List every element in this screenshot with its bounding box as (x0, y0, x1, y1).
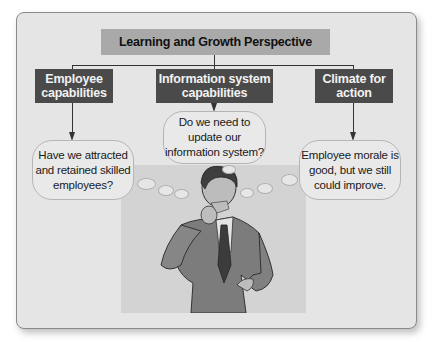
bubble-text-line: Do we need to (179, 116, 251, 128)
bubble-text-line: Have we attracted (38, 149, 127, 161)
bubble-text-line: employees? (53, 179, 113, 191)
question-bubble-climate: Employee morale isgood, but we stillcoul… (299, 140, 401, 200)
connector-horizontal (72, 65, 354, 66)
thought-puff (174, 189, 189, 199)
category-label-line1: Climate for (322, 72, 385, 86)
question-bubble-employee: Have we attractedand retained skilledemp… (32, 140, 134, 200)
diagram-title: Learning and Growth Perspective (101, 29, 330, 55)
bubble-text-line: update our (188, 131, 241, 143)
category-employee-capabilities: Employeecapabilities (35, 69, 113, 103)
question-bubble-information-system: Do we need toupdate ourinformation syste… (163, 111, 266, 164)
thought-puff (158, 185, 174, 196)
category-label-line1: Employee (45, 72, 102, 86)
bubble-text-line: could improve. (314, 179, 386, 191)
category-information-system-capabilities: Information systemcapabilities (156, 69, 273, 103)
category-climate-for-action: Climate foraction (315, 69, 393, 103)
thought-puff (240, 188, 254, 198)
bubble-text-line: Employee morale is (301, 149, 398, 161)
category-label-line2: capabilities (182, 86, 248, 100)
arrow-right-shaft (353, 103, 354, 133)
bubble-text-line: information system? (165, 146, 264, 158)
bubble-text-line: good, but we still (309, 164, 391, 176)
category-label-line2: capabilities (41, 86, 107, 100)
connector-title-down (214, 55, 215, 65)
bubble-text-line: and retained skilled (35, 164, 130, 176)
thought-puff (257, 183, 273, 194)
thought-puff (281, 174, 298, 186)
thought-puff (137, 178, 156, 190)
arrow-left-shaft (72, 103, 73, 133)
category-label-line2: action (336, 86, 372, 100)
thought-puff (222, 165, 236, 174)
category-label-line1: Information system (159, 72, 271, 86)
